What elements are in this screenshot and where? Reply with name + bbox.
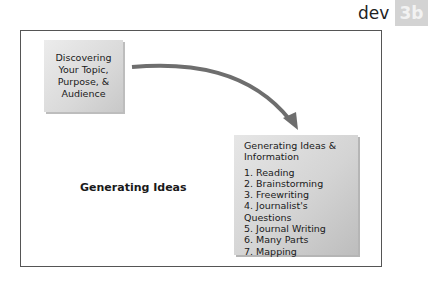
center-label: Generating Ideas [80, 181, 187, 194]
end-box-title-line: Information [244, 151, 358, 162]
list-item: 7. Mapping [244, 246, 358, 257]
list-item: 1. Reading [244, 167, 358, 178]
list-item: 6. Many Parts [244, 234, 358, 245]
list-item: 4. Journalist's Questions [244, 200, 358, 223]
list-item: 3. Freewriting [244, 189, 358, 200]
flow-arrow-icon [0, 0, 428, 285]
end-box-generating-ideas: Generating Ideas & Information 1. Readin… [234, 135, 358, 255]
end-box-title-line: Generating Ideas & [244, 140, 358, 151]
list-item: 5. Journal Writing [244, 223, 358, 234]
list-item: 2. Brainstorming [244, 178, 358, 189]
strategy-list: 1. Reading 2. Brainstorming 3. Freewriti… [244, 167, 358, 257]
